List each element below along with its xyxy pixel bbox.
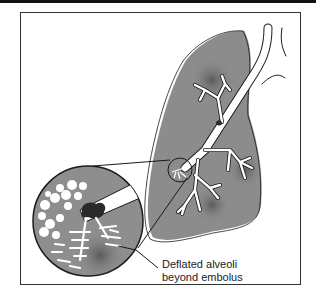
caption-line-1: Deflated alveoli [162,258,243,271]
lung-embolism-illustration [0,0,316,298]
lung [145,30,263,242]
magnified-inset [33,166,143,280]
caption-line-2: beyond embolus [162,271,243,284]
embolus [81,202,105,218]
caption-label: Deflated alveoli beyond embolus [162,258,243,284]
